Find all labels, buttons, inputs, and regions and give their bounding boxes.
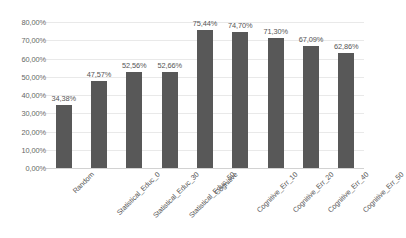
bar-value-label: 67,09% — [299, 35, 323, 44]
y-axis-tick-label: 0,00% — [2, 164, 46, 173]
bar-slot: 62,86% — [329, 22, 364, 168]
bar — [338, 53, 354, 168]
bar-slot: 75,44% — [187, 22, 222, 168]
bar-slot: 67,09% — [293, 22, 328, 168]
bar-value-label: 52,66% — [157, 61, 181, 70]
x-axis-tick-label: Random — [70, 170, 95, 195]
y-axis-tick-label: 60,00% — [2, 54, 46, 63]
bar-value-label: 47,57% — [87, 70, 111, 79]
bar — [56, 105, 72, 168]
bar-value-label: 75,44% — [193, 19, 217, 28]
bar-slot: 74,70% — [223, 22, 258, 168]
bar-value-label: 52,56% — [122, 61, 146, 70]
y-axis-tick-label: 10,00% — [2, 145, 46, 154]
bar — [91, 81, 107, 168]
y-axis-tick-label: 50,00% — [2, 72, 46, 81]
plot-area: 34,38%47,57%52,56%52,66%75,44%74,70%71,3… — [46, 22, 364, 168]
bar — [303, 46, 319, 168]
y-axis-tick-label: 30,00% — [2, 109, 46, 118]
y-axis-tick-label: 20,00% — [2, 127, 46, 136]
bar-slot: 52,66% — [152, 22, 187, 168]
y-axis-tick-label: 80,00% — [2, 18, 46, 27]
bar — [126, 72, 142, 168]
bar — [162, 72, 178, 168]
x-axis-labels: RandomStatistical_Educ_0Statistical_Educ… — [46, 170, 364, 238]
bar-value-label: 71,30% — [263, 27, 287, 36]
bar-slot: 34,38% — [46, 22, 81, 168]
bar-slot: 71,30% — [258, 22, 293, 168]
y-axis-tick-label: 70,00% — [2, 36, 46, 45]
bar-slot: 52,56% — [117, 22, 152, 168]
gridline — [46, 168, 364, 169]
bar — [268, 38, 284, 168]
y-axis-tick-label: 40,00% — [2, 91, 46, 100]
bar-value-label: 34,38% — [51, 94, 75, 103]
bar-value-label: 62,86% — [334, 42, 358, 51]
bar-series: 34,38%47,57%52,56%52,66%75,44%74,70%71,3… — [46, 22, 364, 168]
bar — [197, 30, 213, 168]
bar — [232, 32, 248, 168]
bar-value-label: 74,70% — [228, 21, 252, 30]
bar-slot: 47,57% — [81, 22, 116, 168]
